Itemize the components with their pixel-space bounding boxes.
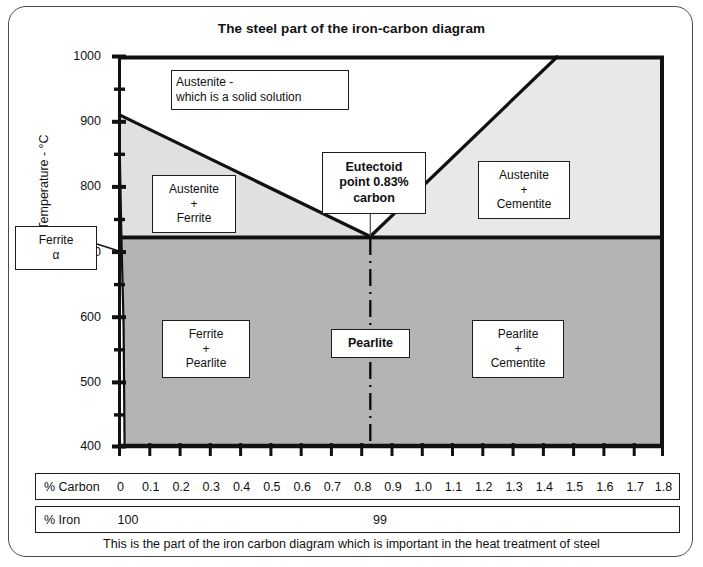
carbon-tick-1.0: 1.0	[415, 480, 432, 494]
carbon-row-label: % Carbon	[44, 480, 100, 494]
carbon-tick-1.7: 1.7	[626, 480, 643, 494]
carbon-tick-1.5: 1.5	[566, 480, 583, 494]
label-pearlite-cementite: Pearlite + Cementite	[472, 320, 564, 378]
carbon-tick-0.4: 0.4	[233, 480, 250, 494]
label-eutectoid-point: Eutectoid point 0.83% carbon	[322, 152, 426, 214]
pearlite-cementite-line2: +	[514, 342, 521, 357]
label-austenite-solid-solution: Austenite - which is a solid solution	[171, 70, 349, 110]
austenite-solid-solution-line1: Austenite -	[176, 75, 233, 90]
phase-diagram-svg	[9, 7, 694, 477]
carbon-tick-1.8: 1.8	[655, 480, 672, 494]
carbon-tick-0: 0	[117, 480, 124, 494]
carbon-tick-0.5: 0.5	[263, 480, 280, 494]
austenite-ferrite-line1: Austenite	[169, 182, 219, 197]
ferrite-pearlite-line3: Pearlite	[186, 356, 227, 371]
carbon-tick-0.8: 0.8	[354, 480, 371, 494]
ferrite-pearlite-line1: Ferrite	[189, 327, 224, 342]
label-pearlite: Pearlite	[331, 329, 410, 358]
carbon-tick-0.6: 0.6	[293, 480, 310, 494]
austenite-ferrite-line3: Ferrite	[177, 211, 212, 226]
iron-value-100: 100	[118, 513, 139, 527]
y-tick-600: 600	[61, 310, 101, 324]
iron-row-label: % Iron	[44, 513, 80, 527]
y-tick-800: 800	[61, 179, 101, 193]
y-tick-1000: 1000	[61, 49, 101, 63]
carbon-axis-row: % Carbon 0 0.1 0.2 0.3 0.4 0.5 0.6 0.7 0…	[35, 473, 680, 500]
austenite-cementite-line1: Austenite	[499, 168, 549, 183]
carbon-tick-1.2: 1.2	[475, 480, 492, 494]
carbon-tick-0.1: 0.1	[142, 480, 159, 494]
pearlite-text: Pearlite	[348, 336, 393, 351]
ferrite-alpha-line1: Ferrite	[39, 233, 74, 248]
carbon-tick-1.6: 1.6	[596, 480, 613, 494]
y-tick-500: 500	[61, 375, 101, 389]
carbon-tick-0.9: 0.9	[384, 480, 401, 494]
label-ferrite-alpha: Ferrite α	[15, 226, 97, 270]
y-tick-900: 900	[61, 114, 101, 128]
carbon-tick-0.7: 0.7	[324, 480, 341, 494]
footer-caption: This is the part of the iron carbon diag…	[9, 537, 694, 551]
pearlite-cementite-line1: Pearlite	[498, 327, 539, 342]
diagram-card: The steel part of the iron-carbon diagra…	[8, 6, 693, 557]
carbon-tick-1.4: 1.4	[536, 480, 553, 494]
eutectoid-line1: Eutectoid	[346, 160, 403, 175]
ferrite-pearlite-line2: +	[202, 342, 209, 357]
pearlite-cementite-line3: Cementite	[491, 356, 546, 371]
carbon-tick-0.3: 0.3	[203, 480, 220, 494]
carbon-tick-0.2: 0.2	[172, 480, 189, 494]
y-tick-400: 400	[61, 439, 101, 453]
eutectoid-line2: point 0.83%	[339, 175, 408, 190]
ferrite-alpha-line2: α	[53, 248, 60, 263]
iron-axis-row: % Iron 100 99	[35, 506, 680, 533]
austenite-cementite-line2: +	[520, 183, 527, 198]
eutectoid-line3: carbon	[353, 191, 395, 206]
label-austenite-cementite: Austenite + Cementite	[478, 161, 570, 219]
label-ferrite-pearlite: Ferrite + Pearlite	[162, 320, 250, 378]
austenite-solid-solution-line2: which is a solid solution	[176, 90, 301, 105]
austenite-ferrite-line2: +	[190, 197, 197, 212]
carbon-tick-1.1: 1.1	[445, 480, 462, 494]
austenite-cementite-line3: Cementite	[497, 197, 552, 212]
label-austenite-ferrite: Austenite + Ferrite	[152, 175, 236, 233]
carbon-tick-1.3: 1.3	[505, 480, 522, 494]
iron-value-99: 99	[373, 513, 387, 527]
phase-diagram-plot: 1000 900 800 700 600 500 400 Temperature…	[9, 7, 694, 558]
